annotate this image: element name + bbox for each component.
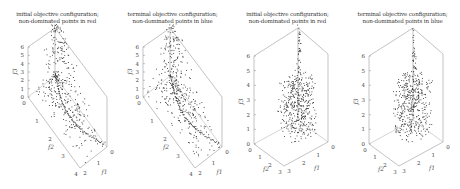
data-point — [169, 82, 170, 83]
data-point — [290, 117, 291, 118]
data-point — [185, 93, 186, 94]
data-point — [65, 63, 66, 64]
data-point — [214, 150, 215, 151]
data-point — [61, 104, 62, 105]
data-point — [52, 25, 53, 26]
data-point — [169, 24, 170, 25]
data-point — [291, 125, 292, 126]
data-point — [49, 83, 50, 84]
data-point — [48, 81, 49, 82]
data-point — [296, 94, 297, 95]
data-point — [398, 79, 399, 80]
data-point — [77, 111, 78, 112]
data-point — [61, 80, 62, 81]
data-point — [60, 29, 61, 30]
data-point — [401, 125, 402, 126]
data-point — [304, 116, 305, 117]
data-point — [190, 104, 191, 105]
data-point — [425, 113, 426, 114]
data-point — [422, 135, 423, 136]
data-point — [67, 129, 68, 130]
data-point — [49, 64, 50, 65]
data-point — [165, 99, 166, 100]
data-point — [62, 79, 63, 80]
data-point — [77, 145, 78, 146]
data-point — [84, 141, 85, 142]
data-point — [76, 65, 77, 66]
data-point — [307, 128, 308, 129]
data-point — [426, 123, 427, 124]
data-point — [80, 93, 81, 94]
data-point — [298, 109, 299, 110]
data-point — [66, 83, 67, 84]
data-point — [180, 122, 181, 123]
data-point — [84, 98, 85, 99]
data-point — [50, 79, 51, 80]
svg-text:3: 3 — [287, 168, 291, 174]
data-point — [55, 32, 56, 33]
data-point — [421, 74, 422, 75]
data-point — [62, 61, 63, 62]
data-point — [288, 87, 289, 88]
data-point — [297, 80, 298, 81]
data-point — [412, 115, 413, 116]
data-point — [295, 84, 296, 85]
data-point — [291, 128, 292, 129]
data-point — [288, 125, 289, 126]
data-point — [415, 68, 416, 69]
data-point — [206, 132, 207, 133]
data-point — [191, 102, 192, 103]
data-point — [410, 95, 411, 96]
data-point — [303, 106, 304, 107]
data-point — [179, 109, 180, 110]
data-point — [396, 91, 397, 92]
data-point — [414, 126, 415, 127]
data-point — [283, 102, 284, 103]
data-point — [174, 78, 175, 79]
data-point — [409, 117, 410, 118]
data-point — [286, 123, 287, 124]
svg-text:2: 2 — [136, 77, 140, 83]
data-point — [293, 113, 294, 114]
data-point — [422, 78, 423, 79]
data-point — [419, 125, 420, 126]
data-point — [419, 133, 420, 134]
data-point — [308, 122, 309, 123]
data-point — [419, 100, 420, 101]
data-point — [70, 116, 71, 117]
data-point — [416, 100, 417, 101]
svg-text:3: 3 — [402, 168, 406, 174]
data-point — [405, 124, 406, 125]
data-point — [147, 92, 148, 93]
data-point — [308, 101, 309, 102]
data-point — [88, 128, 89, 129]
data-point — [411, 111, 412, 112]
data-point — [405, 85, 406, 86]
data-point — [396, 94, 397, 95]
data-point — [426, 115, 427, 116]
data-point — [58, 74, 59, 75]
data-point — [193, 109, 194, 110]
data-point — [75, 128, 76, 129]
data-point — [397, 100, 398, 101]
data-point — [180, 132, 181, 133]
data-point — [301, 74, 302, 75]
data-point — [204, 128, 205, 129]
data-point — [295, 81, 296, 82]
data-point — [393, 91, 394, 92]
data-point — [282, 119, 283, 120]
svg-text:2: 2 — [83, 170, 87, 176]
data-point — [286, 105, 287, 106]
data-point — [165, 102, 166, 103]
data-point — [161, 91, 162, 92]
data-point — [413, 61, 414, 62]
data-point — [407, 106, 408, 107]
data-point — [200, 130, 201, 131]
data-point — [425, 107, 426, 108]
data-point — [414, 48, 415, 49]
data-point — [299, 129, 300, 130]
data-point — [54, 72, 55, 73]
data-point — [292, 125, 293, 126]
data-point — [305, 96, 306, 97]
data-point — [173, 76, 174, 77]
